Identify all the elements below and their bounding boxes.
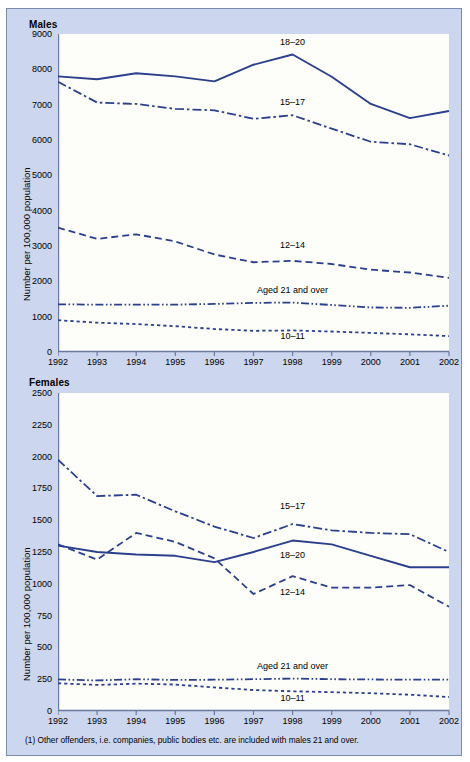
y-tick-label: 9000 <box>8 29 52 39</box>
x-tick-label: 1993 <box>87 716 107 726</box>
x-tick-label: 2001 <box>400 716 420 726</box>
y-tick-label: 0 <box>8 706 52 716</box>
x-tick-label: 2000 <box>361 357 381 367</box>
y-tick-label: 2000 <box>8 452 52 462</box>
series-annotation-10-11: 10–11 <box>280 331 304 341</box>
y-tick-label: 500 <box>8 642 52 652</box>
y-tick-label: 1000 <box>8 312 52 322</box>
series-line-18-20 <box>58 54 449 118</box>
x-tick-label: 1999 <box>322 357 342 367</box>
y-tick-label: 750 <box>8 611 52 621</box>
series-line-10-11 <box>58 320 449 336</box>
x-tick-label: 1994 <box>126 357 146 367</box>
x-tick-label: 1996 <box>204 357 224 367</box>
y-tick-label: 7000 <box>8 100 52 110</box>
x-tick-label: 1995 <box>165 716 185 726</box>
series-line-aged-21-and-over <box>58 303 449 308</box>
y-tick-label: 2500 <box>8 388 52 398</box>
series-line-18-20 <box>58 541 449 568</box>
x-tick-label: 1998 <box>283 357 303 367</box>
chart-page: Males England and Wales Number per 100,0… <box>0 0 470 762</box>
x-tick-label: 1996 <box>204 716 224 726</box>
y-tick-label: 1250 <box>8 547 52 557</box>
series-annotation-aged-21-and-over: Aged 21 and over <box>257 661 328 671</box>
y-tick-label: 4000 <box>8 206 52 216</box>
x-tick-label: 1995 <box>165 357 185 367</box>
series-line-15-17 <box>58 460 449 552</box>
series-annotation-15-17: 15–17 <box>280 501 305 511</box>
x-tick-label: 2001 <box>400 357 420 367</box>
figure-footnote: (1) Other offenders, i.e. companies, pub… <box>25 735 359 745</box>
series-line-10-11 <box>58 683 449 697</box>
series-annotation-15-17: 15–17 <box>280 97 305 107</box>
males-plot-svg <box>58 34 463 366</box>
series-line-aged-21-and-over <box>58 679 449 681</box>
series-annotation-18-20: 18–20 <box>280 37 305 47</box>
top-margin <box>0 0 470 7</box>
y-tick-label: 6000 <box>8 135 52 145</box>
x-tick-label: 1992 <box>48 357 68 367</box>
y-tick-label: 5000 <box>8 170 52 180</box>
series-line-12-14 <box>58 228 449 278</box>
y-tick-label: 8000 <box>8 64 52 74</box>
series-annotation-aged-21-and-over: Aged 21 and over <box>257 285 328 295</box>
series-annotation-12-14: 12–14 <box>280 587 305 597</box>
x-tick-label: 2000 <box>361 716 381 726</box>
x-tick-label: 1997 <box>243 716 263 726</box>
x-tick-label: 1999 <box>322 716 342 726</box>
y-tick-label: 1750 <box>8 483 52 493</box>
series-annotation-18-20: 18–20 <box>280 550 305 560</box>
y-tick-label: 250 <box>8 674 52 684</box>
series-line-12-14 <box>58 533 449 607</box>
x-tick-label: 1998 <box>283 716 303 726</box>
y-tick-label: 2000 <box>8 276 52 286</box>
figure-panel: Males England and Wales Number per 100,0… <box>6 8 462 756</box>
y-tick-label: 1000 <box>8 579 52 589</box>
y-tick-label: 0 <box>8 347 52 357</box>
x-tick-label: 1993 <box>87 357 107 367</box>
series-line-15-17 <box>58 82 449 156</box>
x-tick-label: 2002 <box>439 716 459 726</box>
x-tick-label: 1997 <box>243 357 263 367</box>
x-tick-label: 2002 <box>439 357 459 367</box>
females-chart-title: Females <box>29 377 70 388</box>
series-annotation-12-14: 12–14 <box>280 240 305 250</box>
y-tick-label: 1500 <box>8 515 52 525</box>
y-tick-label: 3000 <box>8 241 52 251</box>
females-plot-svg <box>58 393 463 725</box>
x-tick-label: 1994 <box>126 716 146 726</box>
y-tick-label: 2250 <box>8 420 52 430</box>
series-annotation-10-11: 10–11 <box>280 693 304 703</box>
x-tick-label: 1992 <box>48 716 68 726</box>
